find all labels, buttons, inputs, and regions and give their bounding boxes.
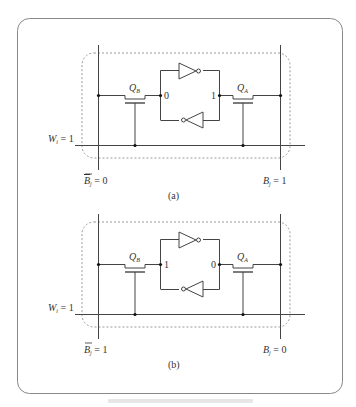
word-line-label: Wi = 1 <box>48 133 74 145</box>
panel-label: (a) <box>168 190 179 202</box>
inverter-bottom-icon <box>186 281 203 297</box>
qb-label: QB <box>129 82 140 94</box>
junction-dot <box>241 313 244 316</box>
junction-dot <box>279 263 282 266</box>
junction-dot <box>133 313 136 316</box>
node-right-value: 1 <box>211 90 216 101</box>
cell-boundary <box>82 53 290 158</box>
junction-dot <box>241 144 244 147</box>
figure-frame <box>18 19 343 394</box>
node-left-value: 0 <box>164 90 169 101</box>
transistor-qa-channel <box>220 96 281 100</box>
inverter-top-bubble <box>197 238 201 242</box>
bit-line-bar-label: Bj = 0 <box>84 175 107 187</box>
panel-label: (b) <box>168 359 180 371</box>
word-line-label: Wi = 1 <box>48 302 74 314</box>
inverter-top-bubble <box>197 69 201 73</box>
junction-dot <box>218 94 221 97</box>
bit-line-label: Bj = 0 <box>263 344 286 356</box>
qb-label: QB <box>129 251 140 263</box>
node-right-value: 0 <box>211 259 216 270</box>
sram-cell-figure: QB QA 0 1 Wi = 1 Bj = 0 Bj = 1 (a) QB <box>0 0 356 407</box>
cell-boundary <box>82 222 290 327</box>
bit-line-bar-label: Bj = 1 <box>84 344 107 356</box>
inverter-top-icon <box>179 232 196 248</box>
transistor-qb-channel <box>99 96 161 100</box>
junction-dot <box>159 94 162 97</box>
inverter-top-icon <box>179 63 196 79</box>
junction-dot <box>159 263 162 266</box>
panel-a: QB QA 0 1 Wi = 1 Bj = 0 Bj = 1 (a) <box>48 45 305 202</box>
transistor-qa-channel <box>220 265 281 269</box>
junction-dot <box>279 94 282 97</box>
junction-dot <box>133 144 136 147</box>
panel-b: QB QA 1 0 Wi = 1 Bj = 1 Bj = 0 (b) <box>48 214 305 371</box>
transistor-qb-channel <box>99 265 161 269</box>
junction-dot <box>97 263 100 266</box>
junction-dot <box>218 263 221 266</box>
junction-dot <box>97 94 100 97</box>
inverter-bottom-icon <box>186 112 203 128</box>
figure-caption-illegible <box>108 399 253 403</box>
inverter-bottom-bubble <box>182 287 186 291</box>
qa-label: QA <box>237 82 248 94</box>
bit-line-label: Bj = 1 <box>263 175 286 187</box>
qa-label: QA <box>237 251 248 263</box>
inverter-bottom-bubble <box>182 118 186 122</box>
node-left-value: 1 <box>164 259 169 270</box>
